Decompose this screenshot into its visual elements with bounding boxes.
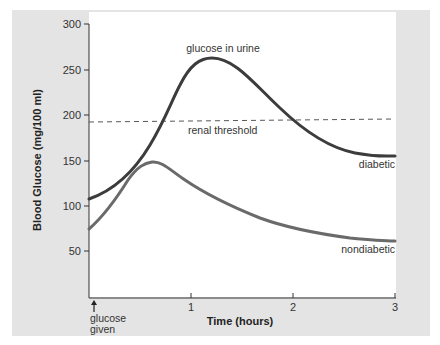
x-tick-1: 1 <box>188 301 194 313</box>
renal-threshold-label: renal threshold <box>188 124 258 136</box>
y-tick-250: 250 <box>63 64 81 76</box>
glucose-given-label-line2: given <box>90 323 115 335</box>
up-arrow-icon <box>91 300 97 312</box>
glucose-in-urine-label: glucose in urine <box>186 42 260 54</box>
y-tick-200: 200 <box>63 109 81 121</box>
x-tick-3: 3 <box>392 301 398 313</box>
glucose-chart: 300 250 200 150 100 50 1 2 3 Time (hours… <box>0 0 440 345</box>
y-axis-title: Blood Glucose (mg/100 ml) <box>31 89 43 231</box>
diabetic-label: diabetic <box>359 158 395 170</box>
y-tick-150: 150 <box>63 155 81 167</box>
y-tick-50: 50 <box>69 245 81 257</box>
x-tick-2: 2 <box>290 301 296 313</box>
nondiabetic-label: nondiabetic <box>341 243 395 255</box>
y-tick-100: 100 <box>63 200 81 212</box>
x-axis-title: Time (hours) <box>207 315 274 327</box>
y-ticks <box>84 24 89 251</box>
y-tick-300: 300 <box>63 18 81 30</box>
